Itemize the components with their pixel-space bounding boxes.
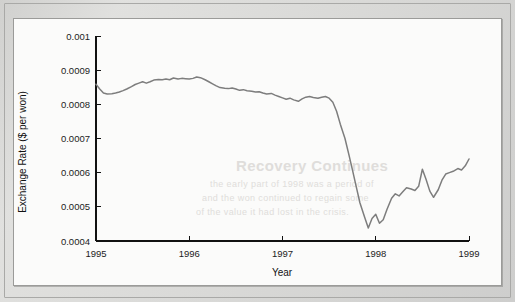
y-tick-label: 0.0008 xyxy=(61,99,90,110)
exchange-rate-line-chart: 0.00040.00050.00060.00070.00080.00090.00… xyxy=(14,19,501,285)
x-tick-label: 1995 xyxy=(85,248,106,259)
y-axis-tick-labels: 0.00040.00050.00060.00070.00080.00090.00… xyxy=(61,31,90,247)
axis-tick-marks xyxy=(96,36,469,241)
figure-plate: Recovery Continues the early part of 199… xyxy=(13,18,502,286)
x-tick-label: 1996 xyxy=(179,248,200,259)
scanned-page: Recovery Continues the early part of 199… xyxy=(0,0,515,302)
y-axis-title: Exchange Rate ($ per won) xyxy=(17,91,28,213)
y-tick-label: 0.0007 xyxy=(61,133,90,144)
exchange-rate-series-line xyxy=(96,77,469,228)
y-tick-label: 0.0005 xyxy=(61,201,90,212)
x-axis-title: Year xyxy=(272,267,293,278)
y-tick-label: 0.0004 xyxy=(61,236,90,247)
y-tick-label: 0.001 xyxy=(66,31,90,42)
y-tick-label: 0.0009 xyxy=(61,65,90,76)
x-axis-tick-labels: 19951996199719981999 xyxy=(85,248,479,259)
y-tick-label: 0.0006 xyxy=(61,167,90,178)
x-tick-label: 1998 xyxy=(365,248,386,259)
x-tick-label: 1997 xyxy=(272,248,293,259)
x-tick-label: 1999 xyxy=(458,248,479,259)
